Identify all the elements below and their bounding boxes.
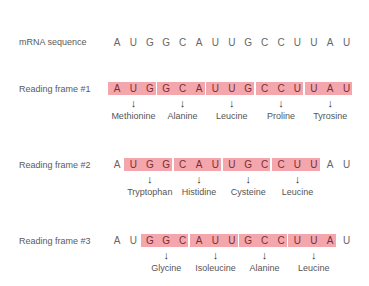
- codon-base: A: [193, 159, 205, 170]
- codon-base: U: [291, 83, 303, 94]
- down-arrow-icon: ↓: [275, 98, 287, 109]
- codon-base: C: [259, 83, 271, 94]
- mrna-base: A: [193, 37, 205, 48]
- codon-base: G: [242, 235, 254, 246]
- mrna-base: C: [275, 37, 287, 48]
- mrna-base: U: [127, 37, 139, 48]
- down-arrow-icon: ↓: [226, 98, 238, 109]
- codon-base: U: [209, 83, 221, 94]
- mrna-base: A: [111, 37, 123, 48]
- amino-acid-label: Leucine: [262, 187, 332, 197]
- codon-base: A: [324, 235, 336, 246]
- mrna-base: U: [209, 37, 221, 48]
- down-arrow-icon: ↓: [144, 174, 156, 185]
- codon-base: A: [193, 235, 205, 246]
- down-arrow-icon: ↓: [177, 98, 189, 109]
- down-arrow-icon: ↓: [308, 250, 320, 261]
- mrna-base: U: [341, 37, 353, 48]
- codon-base: C: [275, 159, 287, 170]
- codon-base: U: [226, 159, 238, 170]
- codon-base: C: [177, 83, 189, 94]
- mrna-base: C: [177, 37, 189, 48]
- codon-base: U: [209, 159, 221, 170]
- reading-frame-2-label: Reading frame #2: [19, 160, 91, 170]
- codon-base: A: [324, 83, 336, 94]
- codon-base: U: [226, 83, 238, 94]
- mrna-base: C: [259, 37, 271, 48]
- mrna-base: U: [291, 37, 303, 48]
- codon-base: U: [308, 83, 320, 94]
- down-arrow-icon: ↓: [259, 250, 271, 261]
- codon-base: G: [144, 235, 156, 246]
- down-arrow-icon: ↓: [291, 174, 303, 185]
- codon-base: U: [127, 159, 139, 170]
- mrna-base: U: [226, 37, 238, 48]
- codon-base: G: [144, 159, 156, 170]
- codon-base: G: [242, 83, 254, 94]
- codon-base: C: [275, 235, 287, 246]
- mrna-sequence-label: mRNA sequence: [19, 37, 87, 47]
- codon-base: G: [144, 83, 156, 94]
- codon-base: U: [308, 159, 320, 170]
- mrna-base: G: [242, 37, 254, 48]
- codon-base: C: [275, 83, 287, 94]
- codon-base: G: [242, 159, 254, 170]
- codon-base: C: [259, 159, 271, 170]
- codon-base: U: [291, 159, 303, 170]
- amino-acid-label: Tyrosine: [295, 111, 365, 121]
- down-arrow-icon: ↓: [242, 174, 254, 185]
- unread-base: A: [111, 159, 123, 170]
- codon-base: U: [226, 235, 238, 246]
- down-arrow-icon: ↓: [193, 174, 205, 185]
- mrna-base: G: [160, 37, 172, 48]
- codon-base: G: [160, 83, 172, 94]
- unread-base: U: [341, 159, 353, 170]
- unread-base: A: [111, 235, 123, 246]
- reading-frame-3-label: Reading frame #3: [19, 236, 91, 246]
- mrna-base: U: [308, 37, 320, 48]
- codon-base: A: [193, 83, 205, 94]
- codon-base: C: [259, 235, 271, 246]
- codon-base: U: [308, 235, 320, 246]
- down-arrow-icon: ↓: [160, 250, 172, 261]
- down-arrow-icon: ↓: [127, 98, 139, 109]
- codon-base: U: [341, 83, 353, 94]
- codon-base: U: [291, 235, 303, 246]
- codon-base: C: [177, 235, 189, 246]
- codon-base: G: [160, 235, 172, 246]
- mrna-base: G: [144, 37, 156, 48]
- unread-base: U: [341, 235, 353, 246]
- codon-base: A: [111, 83, 123, 94]
- codon-base: G: [160, 159, 172, 170]
- codon-base: C: [177, 159, 189, 170]
- codon-base: U: [209, 235, 221, 246]
- reading-frame-1-label: Reading frame #1: [19, 84, 91, 94]
- codon-base: U: [127, 83, 139, 94]
- amino-acid-label: Leucine: [279, 263, 349, 273]
- down-arrow-icon: ↓: [324, 98, 336, 109]
- down-arrow-icon: ↓: [209, 250, 221, 261]
- mrna-base: A: [324, 37, 336, 48]
- unread-base: A: [324, 159, 336, 170]
- unread-base: U: [127, 235, 139, 246]
